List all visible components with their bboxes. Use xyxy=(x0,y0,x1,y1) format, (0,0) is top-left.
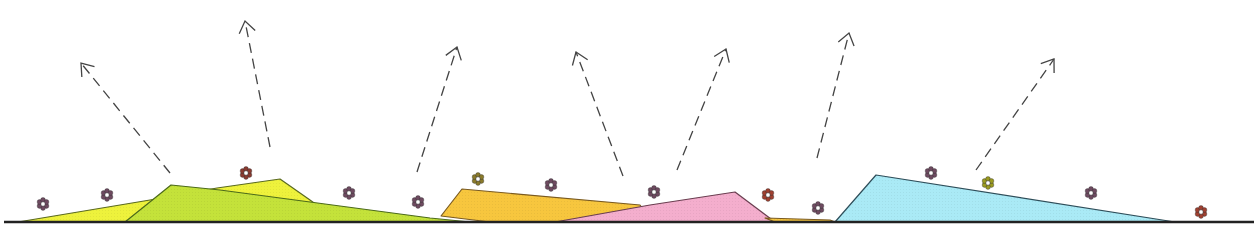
hill-cyan xyxy=(835,175,1175,222)
flower-icon xyxy=(240,167,252,180)
dashed-arrow-up-icon xyxy=(239,21,270,147)
flower-icon xyxy=(343,187,355,200)
dashed-arrow-up-icon xyxy=(81,63,170,173)
flower-icon xyxy=(472,173,484,186)
dashed-arrow-up-icon xyxy=(677,49,729,170)
dashed-arrow-up-icon xyxy=(976,59,1054,170)
flower-icon xyxy=(648,186,660,199)
flower-icon xyxy=(37,198,49,211)
flower-icon xyxy=(982,177,994,190)
flower-icon xyxy=(545,179,557,192)
diagram-canvas xyxy=(0,0,1254,231)
hills-layer xyxy=(18,175,1175,222)
flower-icon xyxy=(101,189,113,202)
hills-diagram xyxy=(0,0,1254,231)
dashed-arrow-up-icon xyxy=(417,47,461,172)
flower-icon xyxy=(1195,206,1207,219)
flower-icon xyxy=(925,167,937,180)
flower-icon xyxy=(1085,187,1097,200)
dashed-arrow-up-icon xyxy=(817,33,854,158)
flower-icon xyxy=(812,202,824,215)
dashed-arrow-up-icon xyxy=(572,52,623,176)
flower-icon xyxy=(762,189,774,202)
arrows-layer xyxy=(81,21,1054,176)
flower-icon xyxy=(412,196,424,209)
